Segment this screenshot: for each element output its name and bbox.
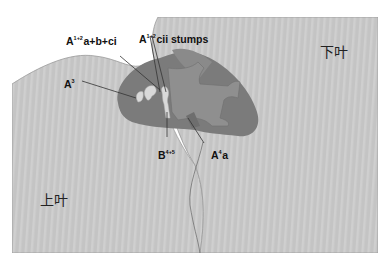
label-a1plus2-cii-stumps: A1+2cii stumps (139, 34, 208, 45)
label-a1plus2-abci: A1+2a+b+ci (66, 36, 117, 47)
label-b4plus5: B4+5 (158, 150, 175, 161)
upper-lobe-label: 上叶 (40, 193, 68, 207)
label-a3: A3 (64, 79, 75, 90)
label-a4a: A4a (211, 150, 228, 161)
lower-lobe-label: 下叶 (320, 45, 348, 59)
